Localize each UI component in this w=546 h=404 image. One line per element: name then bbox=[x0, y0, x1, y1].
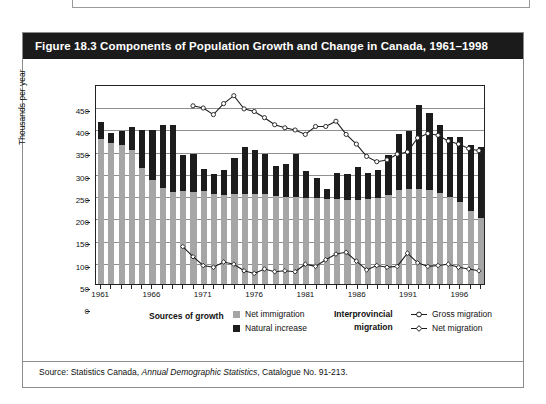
x-axis-tick-mark bbox=[182, 285, 183, 289]
x-axis-tick-mark bbox=[121, 285, 122, 289]
source-suffix: , Catalogue No. 91-213. bbox=[257, 367, 347, 377]
x-axis-tick-mark bbox=[172, 285, 173, 289]
x-axis-tick-mark bbox=[193, 285, 194, 289]
x-axis-tick-mark bbox=[141, 285, 142, 289]
marker-gross-migration bbox=[334, 119, 338, 123]
marker-net-migration bbox=[221, 260, 226, 265]
x-axis-tick-mark bbox=[367, 285, 368, 289]
marker-gross-migration bbox=[262, 116, 266, 120]
marker-net-migration bbox=[211, 265, 216, 270]
marker-net-migration bbox=[262, 267, 267, 272]
marker-gross-migration bbox=[211, 113, 215, 117]
x-axis-tick-label: 1961 bbox=[91, 290, 109, 299]
line-series-layer bbox=[96, 86, 484, 284]
marker-net-migration bbox=[477, 269, 482, 274]
plot-wrapper: Thousands per year 050100150200250300350… bbox=[23, 59, 525, 361]
marker-gross-migration bbox=[303, 132, 307, 136]
marker-gross-migration bbox=[354, 142, 358, 146]
y-axis-tick-label: 250 bbox=[61, 195, 89, 204]
x-axis-tick-mark bbox=[346, 285, 347, 289]
source-publication: Annual Demographic Statistics bbox=[142, 367, 258, 377]
x-axis-tick-mark bbox=[275, 285, 276, 289]
x-axis-tick-mark bbox=[285, 285, 286, 289]
x-axis-tick-mark bbox=[336, 285, 337, 289]
legend-group-interprovincial-migration-line2: migration bbox=[354, 322, 393, 332]
y-axis-tick-mark bbox=[86, 289, 90, 290]
x-axis-tick-mark bbox=[213, 285, 214, 289]
marker-net-migration bbox=[426, 264, 431, 269]
source-note: Source: Statistics Canada, Annual Demogr… bbox=[39, 367, 348, 377]
marker-net-migration bbox=[283, 269, 288, 274]
y-axis-tick-mark bbox=[86, 111, 90, 112]
x-axis-tick-mark bbox=[131, 285, 132, 289]
line-gross-migration bbox=[193, 96, 479, 162]
marker-net-migration bbox=[446, 262, 451, 267]
x-axis-tick-label: 1986 bbox=[348, 290, 366, 299]
marker-gross-migration bbox=[252, 109, 256, 113]
marker-net-migration bbox=[466, 267, 471, 272]
marker-gross-migration bbox=[273, 123, 277, 127]
legend-group-sources-of-growth: Sources of growth bbox=[149, 311, 224, 321]
chart-legend: Sources of growth Net immigration Natura… bbox=[23, 307, 525, 343]
x-axis-tick-mark bbox=[223, 285, 224, 289]
y-axis-tick-mark bbox=[86, 244, 90, 245]
x-axis-tick-label: 1976 bbox=[245, 290, 263, 299]
x-axis-tick-mark bbox=[305, 285, 306, 289]
net-migration-line-diamond-icon bbox=[411, 324, 427, 333]
x-axis-tick-label: 1966 bbox=[143, 290, 161, 299]
x-axis-tick-mark bbox=[398, 285, 399, 289]
y-axis-tick-label: 50 bbox=[61, 284, 89, 293]
y-axis-tick-mark bbox=[86, 155, 90, 156]
x-axis-tick-mark bbox=[264, 285, 265, 289]
y-axis-tick-mark bbox=[86, 133, 90, 134]
marker-gross-migration bbox=[446, 139, 450, 143]
marker-gross-migration bbox=[426, 131, 430, 135]
x-axis-tick-mark bbox=[151, 285, 152, 289]
marker-net-migration bbox=[385, 265, 390, 270]
marker-gross-migration bbox=[436, 133, 440, 137]
x-axis-tick-mark bbox=[388, 285, 389, 289]
x-axis-tick-mark bbox=[100, 285, 101, 289]
x-axis-tick-label: 1991 bbox=[399, 290, 417, 299]
marker-gross-migration bbox=[283, 126, 287, 130]
screenshot-root: Figure 18.3 Components of Population Gro… bbox=[0, 0, 546, 404]
marker-gross-migration bbox=[344, 132, 348, 136]
x-axis-tick-mark bbox=[234, 285, 235, 289]
marker-gross-migration bbox=[324, 124, 328, 128]
legend-item-net-migration: Net migration bbox=[411, 323, 483, 333]
marker-gross-migration bbox=[405, 150, 409, 154]
natural-increase-swatch-icon bbox=[233, 325, 240, 332]
partial-box-above bbox=[72, 0, 530, 8]
y-axis-tick-label: 150 bbox=[61, 240, 89, 249]
marker-gross-migration bbox=[477, 149, 481, 153]
marker-gross-migration bbox=[191, 104, 195, 108]
marker-gross-migration bbox=[201, 106, 205, 110]
x-axis-tick-mark bbox=[377, 285, 378, 289]
figure-title: Figure 18.3 Components of Population Gro… bbox=[23, 33, 523, 59]
x-axis-tick-mark bbox=[449, 285, 450, 289]
y-axis-tick-mark bbox=[86, 267, 90, 268]
x-axis-tick-mark bbox=[110, 285, 111, 289]
legend-label-net-migration: Net migration bbox=[432, 323, 483, 333]
x-axis-tick-mark bbox=[429, 285, 430, 289]
x-axis-tick-mark bbox=[418, 285, 419, 289]
y-axis-title: Thousands per year bbox=[17, 69, 27, 145]
x-axis-tick-mark bbox=[357, 285, 358, 289]
x-axis-tick-mark bbox=[470, 285, 471, 289]
legend-item-natural-increase: Natural increase bbox=[233, 323, 307, 333]
marker-gross-migration bbox=[313, 124, 317, 128]
marker-gross-migration bbox=[222, 102, 226, 106]
source-divider bbox=[23, 361, 523, 362]
figure-card: Figure 18.3 Components of Population Gro… bbox=[22, 32, 524, 388]
x-axis-tick-mark bbox=[244, 285, 245, 289]
marker-gross-migration bbox=[456, 142, 460, 146]
marker-gross-migration bbox=[293, 128, 297, 132]
gross-migration-line-circle-icon bbox=[411, 310, 427, 319]
y-axis-tick-label: 200 bbox=[61, 218, 89, 227]
x-axis-tick-label: 1996 bbox=[450, 290, 468, 299]
x-axis-tick-mark bbox=[326, 285, 327, 289]
x-axis-tick-mark bbox=[295, 285, 296, 289]
legend-label-gross-migration: Gross migration bbox=[432, 309, 492, 319]
net-immigration-swatch-icon bbox=[233, 311, 240, 318]
x-axis-tick-mark bbox=[316, 285, 317, 289]
